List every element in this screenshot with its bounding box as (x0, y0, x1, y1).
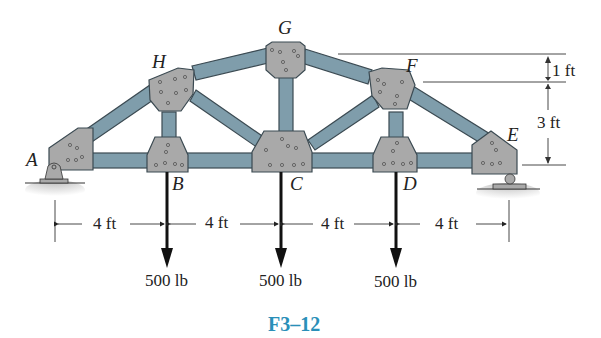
joint-label-G: G (278, 17, 292, 38)
gusset-G (266, 42, 305, 78)
load-label-D: 500 lb (374, 272, 417, 291)
joint-label-F: F (405, 55, 418, 76)
dim-DE: 4 ft (435, 214, 458, 233)
member-FE (407, 86, 490, 144)
member-HG (192, 48, 272, 80)
figure-caption: F3–12 (268, 313, 320, 335)
dim-CD: 4 ft (321, 214, 344, 233)
joint-label-D: D (402, 173, 417, 194)
joint-label-H: H (151, 51, 167, 72)
member-HB (162, 112, 176, 138)
joint-label-B: B (172, 173, 184, 194)
member-AB (85, 153, 155, 168)
load-label-B: 500 lb (145, 271, 188, 290)
dim-3ft: 3 ft (537, 113, 560, 132)
member-FD (389, 112, 403, 138)
truss-diagram: A B C D E F G H 500 lb 500 lb 500 lb 4 f… (0, 0, 601, 338)
member-HC (190, 90, 265, 148)
load-arrows (161, 172, 402, 268)
member-CD (305, 153, 377, 168)
member-DE (415, 153, 475, 168)
dim-AB: 4 ft (93, 214, 116, 233)
joint-label-C: C (290, 173, 303, 194)
member-BC (185, 153, 257, 168)
joint-label-E: E (506, 124, 519, 145)
roller-support-E (476, 174, 540, 203)
load-label-C: 500 lb (259, 271, 302, 290)
joint-label-A: A (24, 149, 38, 170)
member-CF (308, 95, 379, 150)
gusset-D (373, 137, 417, 172)
dim-1ft: 1 ft (552, 61, 575, 80)
member-GC (279, 77, 293, 132)
dim-BC: 4 ft (205, 213, 228, 232)
